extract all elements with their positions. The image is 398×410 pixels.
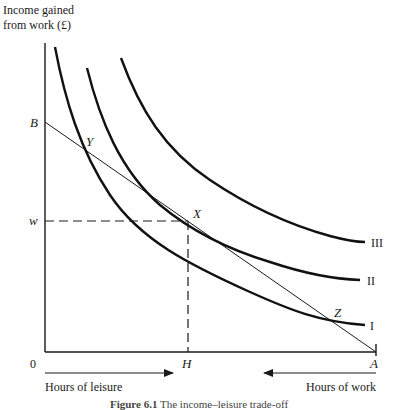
caption-prefix: Figure 6.1: [110, 398, 157, 410]
label-origin: 0: [30, 357, 36, 371]
label-curve-III: III: [371, 236, 383, 250]
figure-caption: Figure 6.1 The income–leisure trade-off: [0, 398, 398, 410]
label-H: H: [181, 356, 192, 371]
indifference-curve-I: [55, 47, 365, 325]
caption-text: The income–leisure trade-off: [160, 398, 288, 410]
indifference-curve-III: [121, 58, 365, 242]
work-arrow-label: Hours of work: [306, 380, 376, 394]
label-w: w: [29, 213, 38, 228]
leisure-arrow-label: Hours of leisure: [45, 380, 122, 394]
label-curve-II: II: [367, 274, 375, 288]
label-Y: Y: [86, 134, 95, 149]
label-X: X: [192, 206, 202, 221]
label-curve-I: I: [370, 319, 374, 333]
label-B: B: [30, 115, 38, 130]
label-Z: Z: [334, 305, 342, 320]
indifference-curve-II: [87, 68, 360, 280]
label-A: A: [369, 356, 378, 371]
